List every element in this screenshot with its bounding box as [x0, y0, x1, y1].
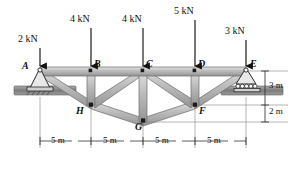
member-C-G — [139, 71, 147, 122]
node-label-H: H — [76, 105, 84, 116]
pin-hinge — [38, 68, 42, 72]
node-label-C: C — [146, 58, 153, 69]
joint-B — [89, 69, 93, 73]
load-label-B: 4 kN — [70, 13, 90, 24]
node-label-F: F — [199, 105, 206, 116]
roller-wheels — [236, 84, 257, 88]
load-label-A: 2 kN — [18, 33, 38, 44]
dim-label-span-4: 5 m — [207, 135, 221, 145]
load-label-D: 5 kN — [174, 5, 194, 16]
node-label-A: A — [22, 60, 29, 71]
dim-label-span-1: 5 m — [51, 135, 65, 145]
joint-D — [193, 69, 197, 73]
load-label-C: 4 kN — [122, 13, 142, 24]
dim-label-height-3m: 3 m — [269, 80, 283, 90]
vert-dim-arrows — [261, 71, 269, 122]
dim-label-span-2: 5 m — [103, 135, 117, 145]
dim-label-span-3: 5 m — [155, 135, 169, 145]
joint-C — [141, 69, 145, 73]
node-label-G: G — [135, 121, 142, 132]
dim-label-height-2m: 2 m — [269, 106, 283, 116]
node-label-B: B — [94, 58, 101, 69]
truss-members — [40, 67, 246, 126]
truss-drawing-canvas — [0, 0, 294, 174]
pin-base-bar — [27, 87, 53, 91]
roller-hinge — [244, 68, 248, 72]
truss-diagram-figure: A B C D E H G F 2 kN 4 kN 4 kN 5 kN 3 kN… — [0, 0, 294, 174]
joint-F — [193, 103, 197, 107]
joint-H — [89, 103, 93, 107]
load-arrows — [40, 20, 246, 66]
roller-base-bar — [234, 88, 260, 91]
load-label-E: 3 kN — [225, 25, 245, 36]
node-label-E: E — [250, 58, 257, 69]
node-label-D: D — [198, 58, 205, 69]
